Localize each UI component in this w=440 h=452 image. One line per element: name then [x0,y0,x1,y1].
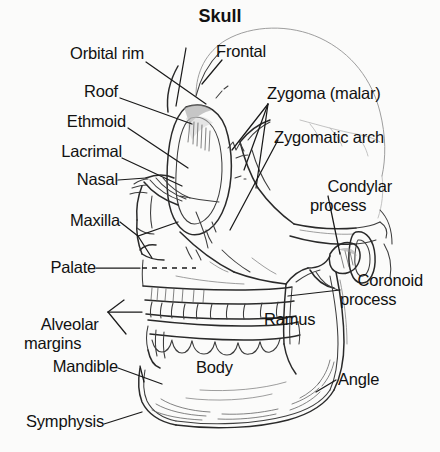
leader-alveolar [108,300,124,312]
mandible [139,242,360,427]
label-nasal: Nasal [2,170,118,189]
label-frontal: Frontal [216,42,266,61]
leader-ethmoid [128,128,188,168]
label-orbital-rim: Orbital rim [2,44,144,63]
facial-sutures [176,247,276,284]
label-mandible: Mandible [2,357,118,376]
label-angle: Angle [338,370,379,389]
label-coronoid-process-text: Coronoid process [340,271,423,308]
orbit [167,86,246,235]
label-body: Body [196,358,233,377]
label-roof: Roof [2,82,118,101]
leader-symphysis [104,412,142,424]
label-coronoid-process: Coronoid process [340,252,423,328]
label-ramus: Ramus [264,310,315,329]
nasal-bones [130,175,190,228]
leader-alveolar-2 [108,312,126,334]
leader-zygomatic-arch [230,140,278,230]
label-ethmoid: Ethmoid [2,112,126,131]
label-condylar-process-line1: Condylar process [310,177,392,214]
label-zygoma-malar: Zygoma (malar) [267,84,381,103]
skull-diagram-figure: Skull [0,0,440,452]
label-zygomatic-arch: Zygomatic arch [274,128,384,147]
leader-orbit-long [176,48,186,106]
label-maxilla: Maxilla [2,211,120,230]
label-lacrimal: Lacrimal [2,142,122,161]
leader-zygoma-b [244,104,268,170]
leader-mandible-tick [140,366,144,382]
label-condylar-process: Condylar process [310,158,392,234]
label-palate: Palate [2,258,96,277]
leader-coronoid [288,290,340,296]
maxilla [137,212,286,286]
leader-angle [316,380,336,392]
label-alveolar-margins-text: Alveolar margins [24,315,99,352]
label-symphysis: Symphysis [2,412,104,431]
